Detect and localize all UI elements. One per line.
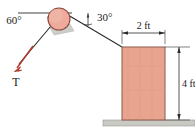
angle-label-30: 30°: [97, 11, 112, 23]
dim-arrowhead-top: [177, 47, 180, 53]
statics-figure: 2 ft 4 ft 60° 30° T: [0, 0, 195, 133]
drum-highlight: [49, 9, 63, 23]
tension-force-arrow: [15, 46, 34, 72]
force-label-tension: T: [12, 75, 20, 89]
angle-arrowhead-30: [87, 14, 89, 18]
angle-label-60: 60°: [6, 14, 21, 26]
dimension-label-width: 2 ft: [137, 20, 151, 31]
block-rect: [122, 47, 165, 120]
tension-arrow-shaft: [17, 46, 33, 68]
cable-right-segment: [68, 15, 122, 47]
dimension-height: 4 ft: [165, 47, 195, 120]
dimension-label-height: 4 ft: [182, 78, 195, 89]
ground-surface: [103, 120, 195, 126]
ground-bar: [103, 120, 195, 126]
dimension-width: 2 ft: [122, 20, 165, 45]
dim-arrowhead-bottom: [177, 114, 180, 120]
figure-canvas: 2 ft 4 ft 60° 30° T: [0, 0, 195, 133]
drum-pulley: [48, 8, 70, 30]
dim-arrowhead-left: [122, 31, 128, 35]
dim-arrowhead-right: [159, 31, 165, 35]
suspended-block: [122, 47, 165, 120]
